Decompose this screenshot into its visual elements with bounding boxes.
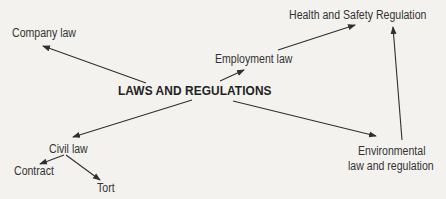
node-civil-law: Civil law	[49, 143, 88, 156]
node-health-safety-regulation: Health and Safety Regulation	[289, 9, 426, 22]
edge-environmental-to-health-safety	[393, 27, 402, 140]
edge-center-to-company-law	[43, 46, 146, 83]
edge-center-to-environmental	[233, 101, 376, 136]
node-company-law: Company law	[12, 27, 76, 40]
node-tort: Tort	[97, 182, 115, 195]
edge-civil-to-contract	[40, 155, 64, 164]
node-environmental-line2: law and regulation	[348, 160, 434, 173]
node-environmental-line1: Environmental	[358, 145, 426, 158]
node-employment-law: Employment law	[215, 53, 292, 66]
laws-regulations-diagram: Company law Employment law Health and Sa…	[0, 0, 446, 199]
edge-employment-to-health-safety	[278, 25, 355, 50]
edge-center-to-employment-law	[220, 70, 244, 81]
edge-center-to-civil-law	[73, 100, 192, 137]
node-contract: Contract	[14, 165, 54, 178]
node-laws-and-regulations-center: LAWS AND REGULATIONS	[118, 84, 272, 97]
edge-civil-to-tort	[66, 155, 100, 180]
